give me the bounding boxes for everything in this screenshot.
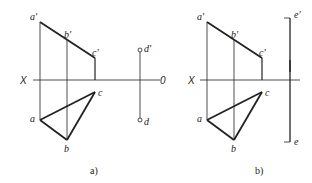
label-a1-b: a' <box>197 11 205 22</box>
caption-b: b) <box>255 165 263 177</box>
label-e1: e' <box>294 9 301 20</box>
label-a: a <box>30 113 35 124</box>
label-b-b: b <box>231 143 236 154</box>
edge-a-b-b <box>207 120 234 140</box>
figure-b: X a' b' c' e' a b c e b) <box>187 9 301 177</box>
label-b1-b: b' <box>231 29 239 40</box>
edge-a1-c1 <box>40 22 95 58</box>
point-d <box>138 118 142 122</box>
label-c: c <box>98 87 103 98</box>
label-d: d <box>144 116 150 127</box>
label-c-b: c <box>265 87 270 98</box>
label-c1-b: c' <box>259 47 266 58</box>
label-b1: b' <box>64 29 72 40</box>
caption-a: a) <box>90 165 98 177</box>
figure-a: X 0 a' b' c' d' a b c d a) <box>19 11 166 177</box>
axis-label-x-b: X <box>187 75 195 86</box>
projection-diagram: X 0 a' b' c' d' a b c d a) X <box>0 0 312 183</box>
label-c1: c' <box>92 47 99 58</box>
label-b: b <box>64 143 69 154</box>
label-a-b: a <box>197 113 202 124</box>
edge-a1-c1-b <box>207 22 262 58</box>
axis-label-o: 0 <box>160 75 166 86</box>
label-a1: a' <box>30 11 38 22</box>
label-d1: d' <box>144 43 152 54</box>
point-d1 <box>138 48 142 52</box>
edge-a-b <box>40 120 67 140</box>
axis-label-x: X <box>19 75 27 86</box>
label-e: e <box>294 136 299 147</box>
